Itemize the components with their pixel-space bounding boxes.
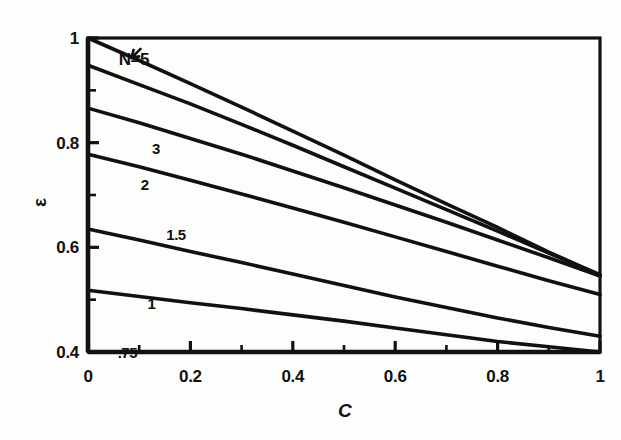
y-tick-label-0-4: 0.4 — [0, 344, 79, 361]
curve-n5 — [88, 38, 600, 275]
x-axis-title: C — [338, 401, 352, 420]
curve-label-n75: .75 — [118, 345, 137, 360]
curve-label-n3: 3 — [152, 141, 160, 156]
curve-label-n15: 1.5 — [166, 227, 185, 242]
y-tick-label-0-6: 0.6 — [0, 239, 79, 256]
x-tick-label-0-4: 0.4 — [281, 368, 304, 385]
x-tick-label-0-8: 0.8 — [486, 368, 509, 385]
x-tick-label-1: 1 — [595, 368, 604, 385]
curve-n2 — [88, 108, 600, 276]
plot-canvas — [0, 0, 621, 440]
curve-label-n5: N=5 — [119, 51, 149, 68]
x-tick-label-0-6: 0.6 — [384, 368, 407, 385]
curve-n15 — [88, 154, 600, 294]
x-tick-label-0-2: 0.2 — [179, 368, 202, 385]
data-curves — [88, 38, 600, 352]
x-tick-label-0: 0 — [83, 368, 92, 385]
figure-container: 1 0.8 0.6 0.4 0 0.2 0.4 0.6 0.8 1 C ε N=… — [0, 0, 621, 440]
plot-frame — [88, 38, 600, 352]
y-axis-title: ε — [30, 198, 49, 207]
y-tick-label-0-8: 0.8 — [0, 134, 79, 151]
y-tick-label-1: 1 — [0, 30, 79, 47]
curve-label-n1: 1 — [147, 296, 155, 311]
axis-ticks — [88, 38, 600, 352]
curve-n3 — [88, 65, 600, 274]
curve-label-n2: 2 — [141, 177, 149, 192]
